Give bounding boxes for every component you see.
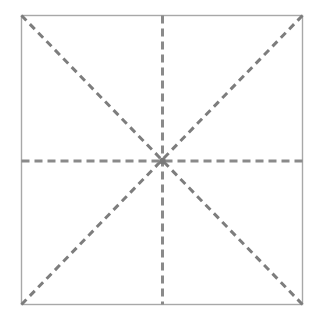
square-fold-diagram	[0, 0, 316, 321]
figure-container: Square outline with four dashed fold lin…	[0, 0, 316, 321]
center-point-marker	[159, 158, 165, 164]
